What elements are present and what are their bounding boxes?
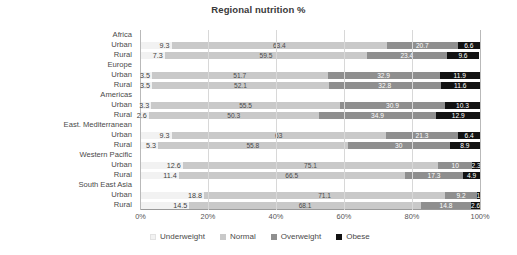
underweight-value-label: 9.3 — [0, 131, 170, 140]
legend-label: Normal — [230, 232, 256, 241]
bar-segment-obese: 9.6 — [447, 52, 480, 60]
bar-segment-normal: 55.5 — [151, 102, 340, 110]
bar-segment-overweight: 32.8 — [329, 82, 441, 90]
bar-segment-obese: 11.6 — [441, 82, 480, 90]
bar-row: 55.530.910.3 — [140, 102, 480, 110]
bar-row: 6321.36.4 — [140, 132, 480, 140]
x-tick-20: 20% — [201, 212, 216, 221]
bar-segment-obese: 10.3 — [445, 102, 480, 110]
gridline-20 — [208, 30, 209, 210]
underweight-value-label: 7.3 — [0, 51, 163, 60]
legend-item-overweight[interactable]: Overweight — [271, 232, 321, 241]
x-axis-tick-labels: 0%20%40%60%80%100% — [140, 212, 480, 224]
bar-segment-normal: 71.1 — [204, 192, 446, 200]
legend-item-underweight[interactable]: Underweight — [150, 232, 205, 241]
bar-segment-normal: 52.1 — [152, 82, 329, 90]
bar-segment-obese: 8.9 — [450, 142, 480, 150]
group-label-east-mediterranean: East. Mediterranean — [64, 120, 132, 129]
bar-segment-normal: 63.4 — [172, 42, 388, 50]
bar-segment-normal: 75.1 — [183, 162, 438, 170]
bar-segment-normal: 63 — [172, 132, 386, 140]
x-tick-100: 100% — [471, 212, 490, 221]
underweight-value-label: 3.3 — [0, 101, 149, 110]
bar-row: 52.132.811.6 — [140, 82, 480, 90]
legend-label: Obese — [346, 232, 370, 241]
bar-segment-normal: 55.8 — [158, 142, 348, 150]
plot-area: 63.420.76.659.523.49.651.732.911.952.132… — [140, 30, 480, 210]
legend-swatch-normal-icon — [220, 234, 226, 240]
underweight-value-label: 11.4 — [0, 171, 177, 180]
group-label-western-pacific: Western Pacific — [79, 150, 132, 159]
underweight-value-label: 12.6 — [0, 161, 181, 170]
bar-row: 55.8308.9 — [140, 142, 480, 150]
bar-segment-obese: 11.9 — [440, 72, 480, 80]
bar-segment-normal: 51.7 — [152, 72, 328, 80]
bar-segment-overweight: 10 — [438, 162, 472, 170]
bar-segment-obese: 6.4 — [458, 132, 480, 140]
bar-row: 75.1102.3 — [140, 162, 480, 170]
bar-row: 59.523.49.6 — [140, 52, 480, 60]
group-label-south-east-asia: South East Asia — [78, 180, 132, 189]
underweight-value-label: 18.8 — [0, 191, 202, 200]
bar-segment-normal: 50.3 — [149, 112, 319, 120]
legend-swatch-underweight-icon — [150, 234, 156, 240]
bar-row: 51.732.911.9 — [140, 72, 480, 80]
x-tick-0: 0% — [135, 212, 146, 221]
chart-legend: UnderweightNormalOverweightObese — [150, 232, 370, 241]
underweight-value-label: 5.3 — [0, 141, 156, 150]
gridline-60 — [344, 30, 345, 210]
chart-container: Regional nutrition % AfricaUrbanRuralEur… — [0, 0, 517, 255]
bar-segment-overweight: 23.4 — [367, 52, 447, 60]
legend-label: Overweight — [281, 232, 321, 241]
underweight-value-label: 14.5 — [0, 201, 187, 210]
x-tick-60: 60% — [337, 212, 352, 221]
x-tick-80: 80% — [405, 212, 420, 221]
chart-title: Regional nutrition % — [0, 4, 517, 15]
bar-segment-normal: 66.5 — [179, 172, 405, 180]
bar-rows: 63.420.76.659.523.49.651.732.911.952.132… — [140, 30, 480, 210]
legend-item-normal[interactable]: Normal — [220, 232, 256, 241]
bar-row: 63.420.76.6 — [140, 42, 480, 50]
gridline-100 — [480, 30, 481, 210]
x-tick-40: 40% — [269, 212, 284, 221]
bar-segment-normal: 59.5 — [165, 52, 367, 60]
underweight-value-label: 3.5 — [0, 81, 150, 90]
group-label-europe: Europe — [108, 60, 133, 69]
x-axis-line — [140, 209, 480, 210]
bar-segment-obese: 12.9 — [436, 112, 480, 120]
bar-row: 66.517.34.9 — [140, 172, 480, 180]
underweight-value-label: 2.6 — [0, 111, 147, 120]
bar-segment-obese: 2.3 — [472, 162, 480, 170]
group-label-africa: Africa — [113, 30, 132, 39]
underweight-value-label: 3.5 — [0, 71, 150, 80]
bar-segment-overweight: 34.9 — [319, 112, 437, 120]
bar-segment-overweight: 17.3 — [405, 172, 464, 180]
legend-swatch-overweight-icon — [271, 234, 277, 240]
bar-segment-overweight: 30.9 — [340, 102, 445, 110]
bar-segment-obese: 6.6 — [458, 42, 480, 50]
legend-swatch-obese-icon — [336, 234, 342, 240]
bar-segment-overweight: 20.7 — [387, 42, 457, 50]
bar-segment-overweight: 21.3 — [386, 132, 458, 140]
legend-label: Underweight — [160, 232, 205, 241]
group-label-americas: Americas — [100, 90, 132, 99]
legend-item-obese[interactable]: Obese — [336, 232, 370, 241]
bar-segment-overweight: 9.2 — [445, 192, 476, 200]
gridline-80 — [412, 30, 413, 210]
bar-segment-overweight: 30 — [348, 142, 450, 150]
bar-row: 50.334.912.9 — [140, 112, 480, 120]
underweight-value-label: 9.3 — [0, 41, 170, 50]
bar-segment-obese: 4.9 — [463, 172, 480, 180]
gridline-40 — [276, 30, 277, 210]
